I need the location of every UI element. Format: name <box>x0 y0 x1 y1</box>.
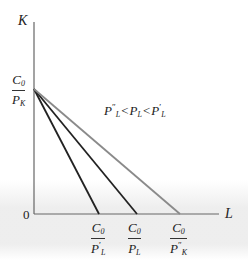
isocost-plot <box>0 0 248 263</box>
fraction-denominator: P′L <box>91 241 105 257</box>
fraction-numerator: C0 <box>172 221 185 236</box>
fraction-numerator: C0 <box>12 73 25 88</box>
x-intercept-label-2: C0 PL <box>128 221 141 257</box>
fraction-bar <box>91 238 105 239</box>
fraction-numerator: C0 <box>128 221 141 236</box>
x-axis-label: L <box>225 207 233 221</box>
isocost-line-high-price <box>34 89 99 214</box>
fraction-denominator: PL <box>128 241 140 257</box>
price-inequality-annotation: P″L<PL<P′L <box>104 102 166 119</box>
origin-label: 0 <box>23 207 30 223</box>
x-intercept-label-3: C0 P″K <box>170 221 187 257</box>
fraction-bar <box>12 90 25 91</box>
fraction-bar <box>170 238 187 239</box>
fraction-bar <box>128 238 141 239</box>
y-intercept-label: C0 PK <box>12 73 25 108</box>
fraction-numerator: C0 <box>92 221 105 236</box>
fraction-denominator: PK <box>12 93 25 108</box>
x-intercept-label-1: C0 P′L <box>91 221 105 257</box>
fraction-denominator: P″K <box>170 241 187 257</box>
y-axis-label: K <box>18 14 27 28</box>
